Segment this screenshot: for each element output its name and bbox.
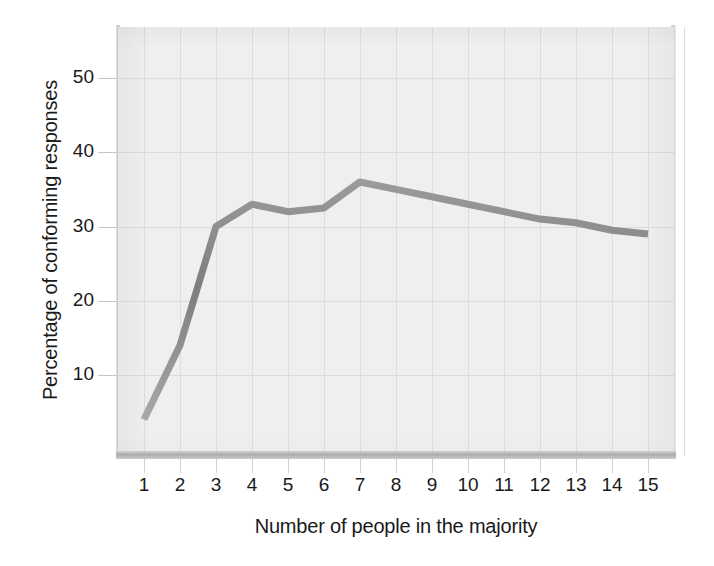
y-tick-label: 40	[52, 140, 94, 162]
x-tick-label: 8	[376, 474, 416, 496]
gridline-horizontal	[118, 375, 674, 376]
x-tick-label: 14	[592, 474, 632, 496]
gridline-vertical	[576, 27, 577, 456]
gridline-vertical	[504, 27, 505, 456]
x-tick-mark	[612, 459, 613, 473]
x-tick-mark	[540, 459, 541, 473]
gridline-horizontal	[118, 227, 674, 228]
gridline-vertical	[288, 27, 289, 456]
x-tick-label: 11	[484, 474, 524, 496]
plot-area	[118, 27, 674, 456]
x-tick-mark	[216, 459, 217, 473]
gridline-vertical	[180, 27, 181, 456]
x-tick-mark	[144, 459, 145, 473]
gridline-horizontal	[118, 152, 674, 153]
x-tick-label: 9	[412, 474, 452, 496]
y-tick-label: 50	[52, 66, 94, 88]
x-tick-mark	[648, 459, 649, 473]
x-tick-mark	[468, 459, 469, 473]
x-tick-label: 15	[628, 474, 668, 496]
x-tick-mark	[180, 459, 181, 473]
gridline-horizontal	[118, 301, 674, 302]
x-tick-label: 1	[124, 474, 164, 496]
x-tick-label: 5	[268, 474, 308, 496]
chart-figure: Percentage of conforming responses 10203…	[0, 0, 714, 566]
gridline-horizontal	[118, 78, 674, 79]
x-tick-label: 12	[520, 474, 560, 496]
x-tick-mark	[252, 459, 253, 473]
x-tick-label: 2	[160, 474, 200, 496]
gridline-vertical	[324, 27, 325, 456]
x-tick-label: 4	[232, 474, 272, 496]
y-tick-mark	[98, 301, 116, 302]
gridline-vertical	[648, 27, 649, 456]
x-tick-mark	[288, 459, 289, 473]
y-tick-mark	[98, 227, 116, 228]
x-tick-label: 13	[556, 474, 596, 496]
x-tick-label: 7	[340, 474, 380, 496]
y-tick-label: 20	[52, 289, 94, 311]
x-tick-mark	[324, 459, 325, 473]
x-tick-label: 10	[448, 474, 488, 496]
y-tick-label: 30	[52, 215, 94, 237]
x-tick-label: 6	[304, 474, 344, 496]
x-tick-mark	[396, 459, 397, 473]
gridline-vertical	[396, 27, 397, 456]
y-tick-mark	[98, 78, 116, 79]
x-tick-mark	[432, 459, 433, 473]
gridline-vertical	[252, 27, 253, 456]
gridline-vertical	[468, 27, 469, 456]
gridline-vertical	[612, 27, 613, 456]
y-tick-label: 10	[52, 363, 94, 385]
gridline-vertical	[432, 27, 433, 456]
x-tick-mark	[504, 459, 505, 473]
x-tick-mark	[576, 459, 577, 473]
y-tick-mark	[98, 152, 116, 153]
x-axis-title: Number of people in the majority	[118, 515, 674, 538]
x-tick-label: 3	[196, 474, 236, 496]
gridline-vertical	[216, 27, 217, 456]
y-tick-mark	[98, 375, 116, 376]
gridline-vertical	[684, 27, 685, 456]
gridline-vertical	[360, 27, 361, 456]
gridline-vertical	[540, 27, 541, 456]
gridline-vertical	[144, 27, 145, 456]
x-tick-mark	[360, 459, 361, 473]
x-axis-spine	[116, 451, 676, 459]
